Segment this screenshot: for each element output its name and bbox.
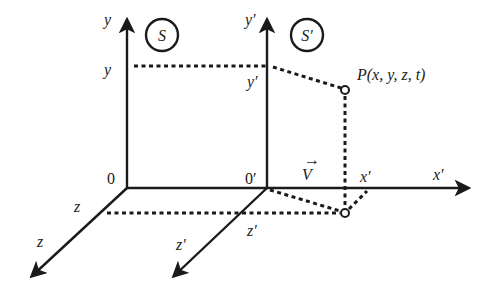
s-z-projection-label: z xyxy=(73,198,81,215)
reference-frames-diagram: S y y 0 z z S′ y′ y′ 0′ x′ x′ z′ z′ → V xyxy=(0,0,494,300)
projection-lines xyxy=(107,66,367,213)
s-prime-y-projection-label: y′ xyxy=(245,73,258,91)
s-prime-origin-label: 0′ xyxy=(245,170,257,187)
s-y-axis-label: y xyxy=(102,11,112,29)
s-z-axis-label: z xyxy=(36,233,44,250)
s-prime-z-axis-label: z′ xyxy=(175,236,186,253)
s-prime-y-axis-label: y′ xyxy=(243,11,256,29)
y-to-point-line xyxy=(273,67,341,88)
velocity-vector: → V xyxy=(302,151,320,183)
s-y-projection-label: y xyxy=(102,61,112,79)
frame-s: S y y 0 z z xyxy=(32,11,178,276)
origin-to-base-line xyxy=(270,190,340,211)
base-to-x-line xyxy=(349,191,367,209)
s-prime-x-axis-label: x′ xyxy=(432,166,444,183)
point-p-marker xyxy=(341,86,349,94)
point-p-base-marker xyxy=(341,209,349,217)
s-frame-badge: S xyxy=(158,27,166,44)
frame-s-prime: S′ y′ y′ 0′ x′ x′ z′ z′ xyxy=(174,11,444,276)
s-prime-frame-badge: S′ xyxy=(301,27,313,44)
s-prime-x-projection-label: x′ xyxy=(359,168,371,185)
velocity-label: V xyxy=(302,166,314,183)
s-prime-z-projection-label: z′ xyxy=(246,222,257,239)
point-p-label: P(x, y, z, t) xyxy=(356,66,425,84)
point-p: P(x, y, z, t) xyxy=(341,66,425,217)
s-origin-label: 0 xyxy=(107,170,115,187)
